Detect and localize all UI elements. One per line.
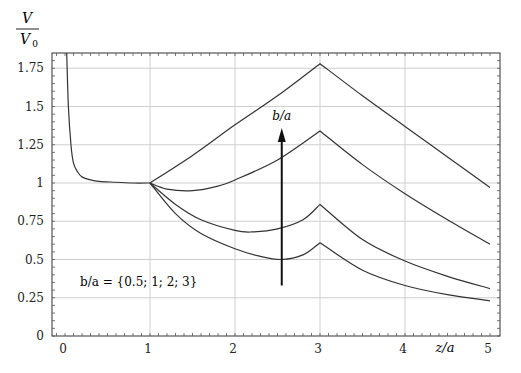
x-axis-label: z/a	[435, 340, 455, 355]
y-tick-label: 1	[36, 176, 44, 190]
y-tick-label: 0.25	[17, 291, 44, 305]
data-curves	[67, 53, 490, 301]
y-tick-label: 0	[36, 329, 44, 343]
y-tick-label: 1.5	[25, 100, 44, 114]
x-tick-label: 4	[399, 342, 407, 356]
parameter-annotation: b/a = {0.5; 1; 2; 3}	[80, 275, 197, 289]
svg-text:0: 0	[32, 39, 38, 49]
axis-ticks	[52, 53, 500, 336]
x-tick-label: 5	[484, 342, 492, 356]
svg-text:b/a: b/a	[272, 109, 291, 123]
svg-text:V: V	[20, 31, 32, 47]
y-tick-labels: 00.250.50.7511.251.51.75	[17, 61, 44, 343]
grid-lines	[52, 53, 500, 336]
y-tick-label: 1.25	[17, 138, 44, 152]
near-field-curve	[67, 53, 150, 183]
y-tick-label: 1.75	[17, 61, 44, 75]
plot-frame	[52, 53, 500, 336]
svg-text:V: V	[22, 10, 34, 26]
x-tick-labels: 012345	[59, 342, 492, 356]
x-tick-label: 1	[144, 342, 152, 356]
y-tick-label: 0.5	[25, 253, 44, 267]
chart: 00.250.50.7511.251.51.75 012345 V V 0 z/…	[0, 0, 521, 373]
x-tick-label: 2	[229, 342, 237, 356]
y-axis-label: V V 0	[16, 10, 39, 49]
x-tick-label: 3	[314, 342, 322, 356]
x-tick-label: 0	[59, 342, 67, 356]
y-tick-label: 0.75	[17, 214, 44, 228]
